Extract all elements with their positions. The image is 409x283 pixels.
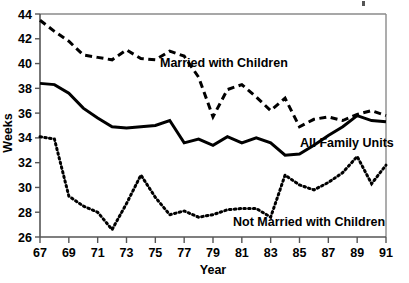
x-tick-label-83: 83 [264,246,278,260]
x-tick-label-77: 77 [177,246,191,260]
artifact-speck [362,1,365,6]
line-chart: 26283032343638404244 6769717375777981838… [0,0,409,283]
x-tick-label-87: 87 [321,246,335,260]
x-tick-label-71: 71 [91,246,105,260]
x-tick-label-91: 91 [379,246,393,260]
y-tick-label-44: 44 [18,8,32,22]
married-with-children-label: Married with Children [160,56,288,70]
y-tick-label-42: 42 [18,32,32,46]
y-tick-label-36: 36 [18,107,32,121]
y-axis-title: Weeks [1,113,15,152]
axis-lines [40,14,386,237]
y-tick-label-30: 30 [18,181,32,195]
plot-frame [40,14,386,237]
y-tick-label-28: 28 [18,206,32,220]
x-tick-labels: 67697173757779818385878991 [33,246,393,260]
x-axis-title: Year [200,263,227,277]
x-tick-label-67: 67 [33,246,47,260]
x-tick-label-75: 75 [148,246,162,260]
not-married-with-children-label: Not Married with Children [233,215,385,229]
x-axis-ticks [40,237,386,243]
x-tick-label-79: 79 [206,246,220,260]
series-line-married-with-children [40,20,386,127]
x-tick-label-69: 69 [62,246,76,260]
y-tick-label-38: 38 [18,82,32,96]
x-tick-label-89: 89 [350,246,364,260]
x-tick-label-81: 81 [235,246,249,260]
x-tick-label-85: 85 [293,246,307,260]
series-group [40,20,386,229]
all-family-units-label: All Family Units [300,136,394,150]
y-tick-label-34: 34 [18,131,32,145]
y-tick-labels: 26283032343638404244 [18,8,32,245]
x-tick-label-73: 73 [120,246,134,260]
y-tick-label-32: 32 [18,156,32,170]
y-tick-label-26: 26 [18,231,32,245]
y-tick-label-40: 40 [18,57,32,71]
chart-container: 26283032343638404244 6769717375777981838… [0,0,409,283]
